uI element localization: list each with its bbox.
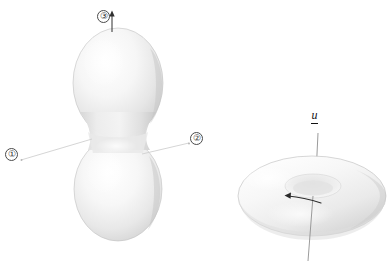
nuclear-shapes-figure xyxy=(0,0,392,262)
callout-1-badge[interactable]: ① xyxy=(5,148,18,161)
leader-line-callout-1 xyxy=(21,139,92,160)
torus-highlight-front xyxy=(266,201,334,227)
torus-hole-inner-shadow xyxy=(293,181,333,196)
dumbbell-lower-highlight xyxy=(85,148,127,196)
callout-3-badge[interactable]: ③ xyxy=(97,10,110,23)
torus-highlight-left xyxy=(242,165,294,191)
leader-dot-callout-2 xyxy=(188,143,190,145)
left-shape-group xyxy=(73,28,163,241)
callout-2-badge[interactable]: ② xyxy=(190,132,203,145)
axis-vector-label: u xyxy=(311,109,318,124)
dumbbell-waist-highlight xyxy=(96,138,136,154)
leader-dot-callout-1 xyxy=(21,159,23,161)
dumbbell-upper-highlight xyxy=(82,36,126,88)
right-shape-group xyxy=(238,133,386,261)
